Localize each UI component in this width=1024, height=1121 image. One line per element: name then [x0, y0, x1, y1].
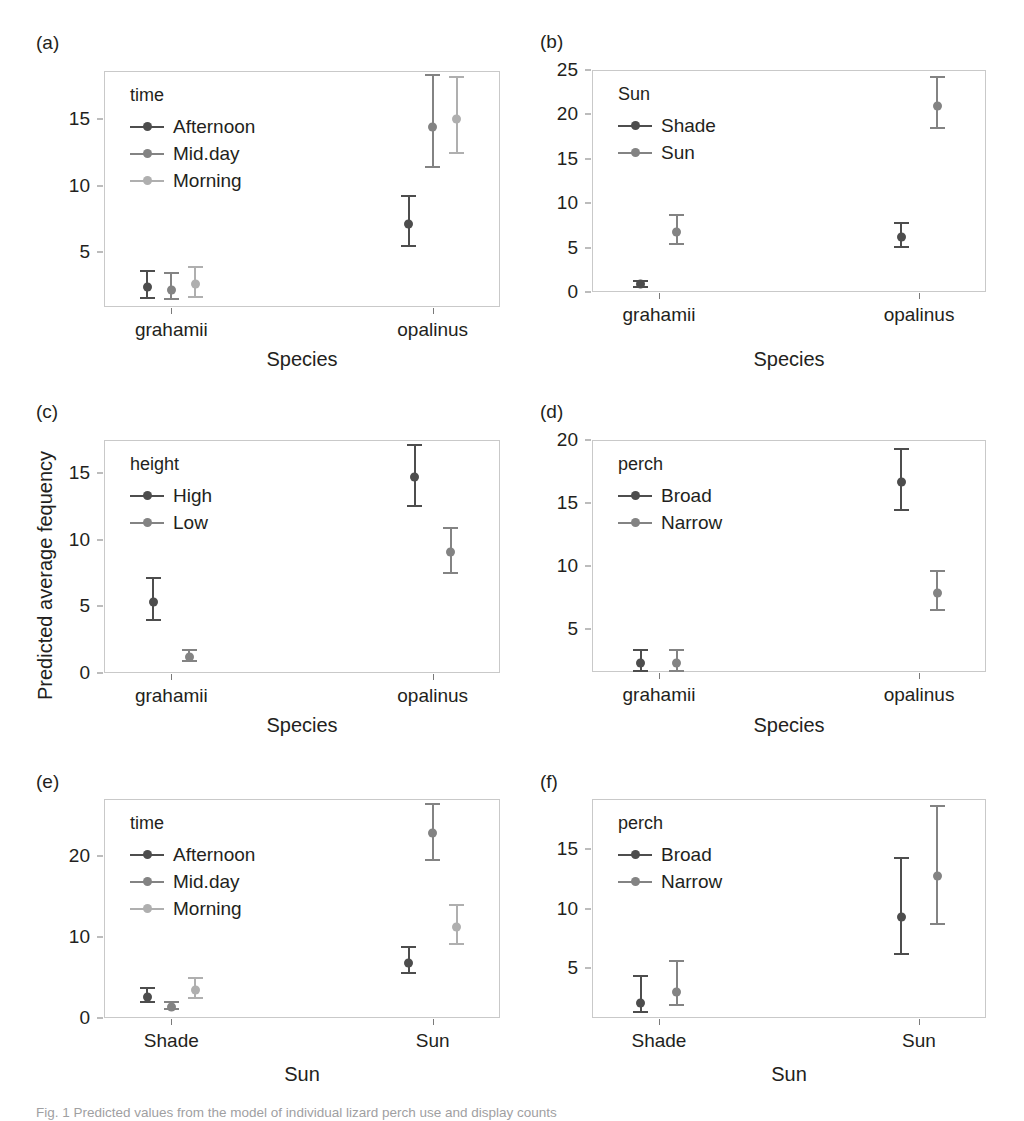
- y-tick-mark-b: [585, 203, 591, 204]
- error-bar-cap-lower: [188, 997, 203, 999]
- error-bar-cap-upper: [146, 577, 161, 579]
- data-point: [897, 232, 906, 241]
- error-bar-cap-lower: [633, 1011, 648, 1013]
- data-point: [143, 282, 152, 291]
- error-bar-cap-upper: [401, 195, 416, 197]
- error-bar-a-afternoon-opalinus: [397, 195, 421, 247]
- legend-item-low[interactable]: Low: [130, 509, 212, 536]
- x-axis-title-c: Species: [266, 714, 337, 737]
- error-bar-cap-lower: [449, 152, 464, 154]
- data-point: [149, 598, 158, 607]
- error-bar-cap-lower: [407, 505, 422, 507]
- error-bar-cap-lower: [894, 953, 909, 955]
- legend-key-dot: [143, 904, 152, 913]
- legend-item-mid-day[interactable]: Mid.day: [130, 140, 255, 167]
- data-point: [191, 985, 200, 994]
- error-bar-whisker: [640, 975, 642, 1013]
- legend-item-afternoon[interactable]: Afternoon: [130, 113, 255, 140]
- data-point: [897, 912, 906, 921]
- error-bar-e-afternoon-sun: [397, 946, 421, 974]
- legend-key-icon: [618, 119, 652, 133]
- legend-item-broad[interactable]: Broad: [618, 482, 722, 509]
- y-tick-mark-c: [97, 539, 103, 540]
- data-point: [143, 992, 152, 1001]
- error-bar-cap-upper: [894, 448, 909, 450]
- y-tick-label-c: 10: [52, 529, 90, 551]
- data-point: [672, 659, 681, 668]
- x-tick-label-e: Sun: [416, 1030, 450, 1052]
- error-bar-cap-upper: [407, 444, 422, 446]
- legend-item-label: Morning: [173, 170, 242, 192]
- error-bar-b-sun-grahamii: [665, 214, 689, 245]
- legend-item-label: Sun: [661, 142, 695, 164]
- error-bar-cap-lower: [930, 923, 945, 925]
- error-bar-cap-lower: [140, 297, 155, 299]
- data-point: [933, 588, 942, 597]
- error-bar-a-morning-opalinus: [445, 76, 469, 153]
- error-bar-f-broad-sun: [889, 857, 913, 955]
- error-bar-cap-upper: [633, 649, 648, 651]
- data-point: [636, 659, 645, 668]
- legend-item-label: Mid.day: [173, 143, 240, 165]
- error-bar-d-broad-grahamii: [629, 649, 653, 672]
- y-tick-label-b: 5: [540, 237, 578, 259]
- legend-key-icon: [130, 875, 164, 889]
- y-tick-mark-a: [97, 185, 103, 186]
- data-point: [446, 547, 455, 556]
- panel-tag-a: (a): [36, 32, 59, 54]
- data-point: [636, 998, 645, 1007]
- x-tick-label-d: opalinus: [884, 684, 955, 706]
- error-bar-cap-upper: [140, 987, 155, 989]
- y-tick-mark-c: [97, 473, 103, 474]
- legend-key-dot: [631, 148, 640, 157]
- error-bar-a-mid-day-grahamii: [159, 272, 183, 300]
- error-bar-c-high-opalinus: [403, 444, 427, 507]
- error-bar-cap-lower: [425, 859, 440, 861]
- legend-key-icon: [130, 174, 164, 188]
- legend-key-dot: [631, 850, 640, 859]
- legend-item-shade[interactable]: Shade: [618, 112, 716, 139]
- x-tick-mark-d: [919, 673, 920, 679]
- legend-item-label: Shade: [661, 115, 716, 137]
- x-axis-title-f: Sun: [771, 1063, 807, 1086]
- legend-item-label: Morning: [173, 898, 242, 920]
- error-bar-b-sun-opalinus: [925, 76, 949, 128]
- y-tick-mark-b: [585, 114, 591, 115]
- x-tick-label-b: grahamii: [623, 304, 696, 326]
- legend-key-icon: [130, 902, 164, 916]
- y-tick-label-c: 0: [52, 662, 90, 684]
- error-bar-cap-upper: [164, 272, 179, 274]
- x-tick-mark-b: [919, 293, 920, 299]
- legend-title-b: Sun: [618, 84, 716, 105]
- x-tick-label-c: grahamii: [135, 685, 208, 707]
- legend-item-narrow[interactable]: Narrow: [618, 868, 722, 895]
- y-tick-label-b: 20: [540, 103, 578, 125]
- y-tick-label-c: 5: [52, 595, 90, 617]
- data-point: [410, 473, 419, 482]
- error-bar-f-narrow-shade: [665, 960, 689, 1006]
- legend-item-morning[interactable]: Morning: [130, 167, 255, 194]
- y-tick-label-c: 15: [52, 462, 90, 484]
- legend-key-icon: [130, 489, 164, 503]
- error-bar-cap-lower: [164, 298, 179, 300]
- legend-item-broad[interactable]: Broad: [618, 841, 722, 868]
- legend-item-narrow[interactable]: Narrow: [618, 509, 722, 536]
- legend-key-icon: [618, 516, 652, 530]
- legend-key-dot: [143, 149, 152, 158]
- y-tick-mark-f: [585, 848, 591, 849]
- legend-c: heightHighLow: [130, 454, 212, 536]
- x-tick-mark-b: [659, 293, 660, 299]
- legend-item-mid-day[interactable]: Mid.day: [130, 868, 255, 895]
- x-tick-mark-f: [659, 1019, 660, 1025]
- legend-item-sun[interactable]: Sun: [618, 139, 716, 166]
- y-tick-mark-f: [585, 968, 591, 969]
- data-point: [933, 872, 942, 881]
- legend-item-morning[interactable]: Morning: [130, 895, 255, 922]
- legend-item-high[interactable]: High: [130, 482, 212, 509]
- legend-key-dot: [143, 518, 152, 527]
- legend-d: perchBroadNarrow: [618, 454, 722, 536]
- y-tick-mark-a: [97, 119, 103, 120]
- data-point: [672, 987, 681, 996]
- legend-item-afternoon[interactable]: Afternoon: [130, 841, 255, 868]
- y-tick-label-b: 0: [540, 281, 578, 303]
